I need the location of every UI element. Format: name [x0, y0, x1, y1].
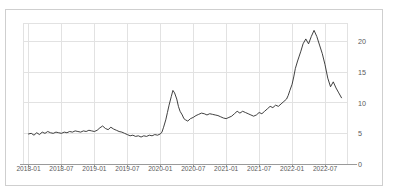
y-axis-tick-label: 5	[358, 129, 362, 138]
y-axis-tick-label: 0	[358, 160, 362, 169]
y-axis-tick-label: 10	[358, 98, 366, 107]
x-axis-tick-label: 2019-01	[82, 165, 106, 172]
x-axis-tick-label: 2021-07	[247, 165, 271, 172]
x-axis-tick-label: 2018-07	[49, 165, 73, 172]
x-axis-tick-label: 2020-07	[181, 165, 205, 172]
line-chart-plot	[6, 10, 382, 185]
chart-screenshot: 051015202018-012018-072019-012019-072020…	[0, 0, 395, 196]
y-axis-tick-label: 15	[358, 68, 366, 77]
top-cutoff-text-strip	[0, 0, 395, 8]
x-axis-tick-label: 2020-01	[148, 165, 172, 172]
x-axis-tick-label: 2018-01	[16, 165, 40, 172]
y-axis-tick-label: 20	[358, 37, 366, 46]
x-axis-tick-label: 2022-01	[280, 165, 304, 172]
chart-figure: 051015202018-012018-072019-012019-072020…	[6, 10, 382, 185]
x-axis-tick-label: 2019-07	[115, 165, 139, 172]
x-axis-tick-label: 2022-07	[313, 165, 337, 172]
x-axis-tick-label: 2021-01	[214, 165, 238, 172]
figure-frame: 051015202018-012018-072019-012019-072020…	[5, 9, 383, 186]
